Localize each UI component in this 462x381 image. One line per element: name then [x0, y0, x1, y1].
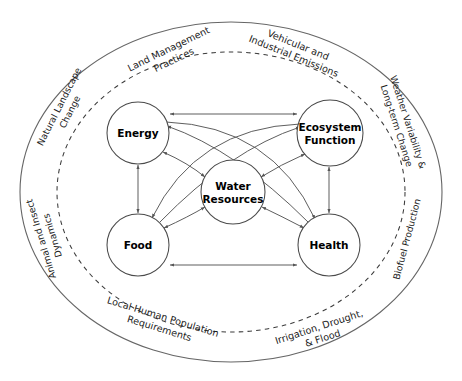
water-label-line1: Water — [215, 180, 251, 192]
energy-water-link — [163, 152, 205, 177]
biofuel-line1: Biofuel Production — [390, 197, 422, 281]
node-ecosystem-function[interactable]: Ecosystem Function — [297, 100, 363, 166]
health-water-link — [262, 207, 304, 228]
ring-label-local-population: Local Human Population Requirements — [102, 294, 220, 350]
nexus-diagram: Energy Ecosystem Function Water Resource… — [0, 0, 462, 381]
node-energy[interactable]: Energy — [107, 102, 169, 164]
water-label-line2: Resources — [203, 193, 264, 205]
water-circle[interactable] — [201, 160, 265, 224]
ecosystem-circle[interactable] — [297, 100, 363, 166]
node-health[interactable]: Health — [298, 214, 360, 276]
food-water-link — [164, 207, 205, 228]
node-layer: Energy Ecosystem Function Water Resource… — [107, 100, 363, 276]
health-label: Health — [309, 239, 348, 251]
ecosystem-label-line1: Ecosystem — [298, 121, 361, 133]
ring-label-natural-landscape: Natural Landscape Change — [34, 65, 94, 153]
ring-label-irrigation: Irrigation, Drought, & Flood — [274, 307, 368, 357]
node-water-resources[interactable]: Water Resources — [201, 160, 265, 224]
energy-label: Energy — [117, 127, 158, 139]
food-label: Food — [124, 239, 153, 251]
node-food[interactable]: Food — [107, 214, 169, 276]
ring-label-animal-insect: Animal and Insect Dynamics — [23, 194, 69, 280]
ring-label-biofuel: Biofuel Production — [390, 197, 422, 281]
ecosystem-label-line2: Function — [304, 134, 355, 146]
ecosystem-water-link — [261, 154, 305, 177]
ring-label-weather: Weather Variability & Long-term Change — [377, 74, 429, 174]
